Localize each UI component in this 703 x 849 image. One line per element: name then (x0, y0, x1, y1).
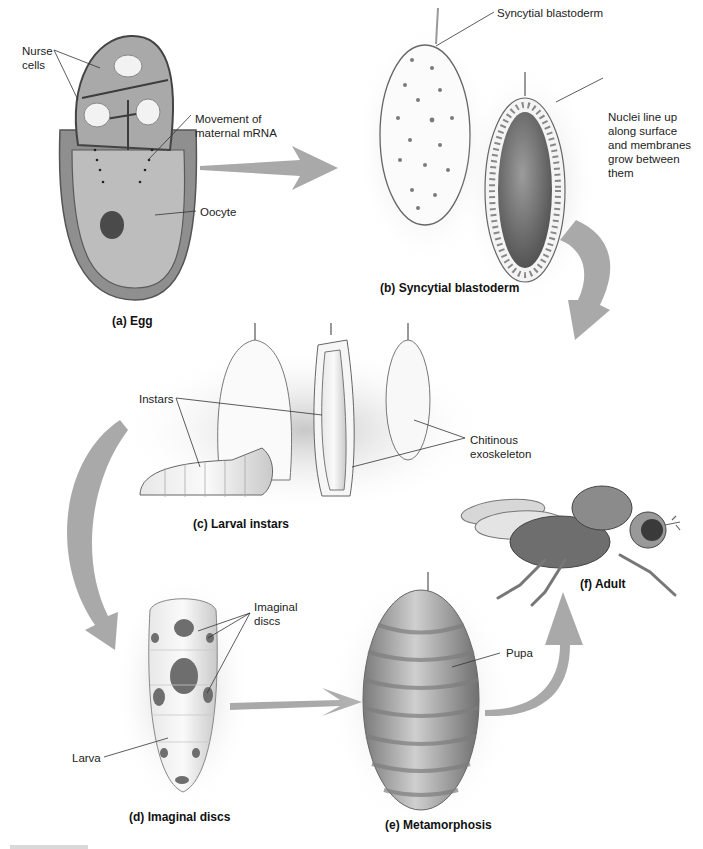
label-syncytial-blastoderm: Syncytial blastoderm (497, 6, 603, 20)
larval-instars-illustration (120, 323, 490, 515)
label-instars: Instars (139, 392, 174, 406)
adult-fly-illustration (460, 486, 680, 605)
caption-syncytial-blastoderm: (b) Syncytial blastoderm (380, 281, 519, 295)
label-nurse-cells: Nurse cells (22, 44, 53, 72)
caption-metamorphosis: (e) Metamorphosis (385, 818, 492, 832)
label-nuclei-line-up: Nuclei line up along surface and membran… (608, 110, 691, 180)
arrow-larval-to-imaginal (67, 420, 128, 650)
label-imaginal-discs: Imaginal discs (254, 600, 297, 628)
pupa-illustration (326, 570, 516, 830)
caption-larval-instars: (c) Larval instars (193, 517, 289, 531)
label-oocyte: Oocyte (200, 205, 236, 219)
label-chitinous-exoskeleton: Chitinous exoskeleton (470, 433, 531, 461)
caption-adult: (f) Adult (580, 577, 626, 591)
label-larva: Larva (72, 751, 101, 765)
figure-tag-remnant (10, 845, 88, 849)
imaginal-discs-illustration (113, 570, 253, 810)
arrow-egg-to-blastoderm (200, 146, 338, 190)
diagram-canvas (0, 0, 703, 849)
label-maternal-mrna: Movement of maternal mRNA (195, 112, 277, 140)
egg-illustration (60, 36, 197, 300)
blastoderm-illustration (355, 8, 598, 305)
caption-imaginal-discs: (d) Imaginal discs (129, 810, 230, 824)
caption-egg: (a) Egg (112, 314, 153, 328)
label-pupa: Pupa (506, 646, 533, 660)
